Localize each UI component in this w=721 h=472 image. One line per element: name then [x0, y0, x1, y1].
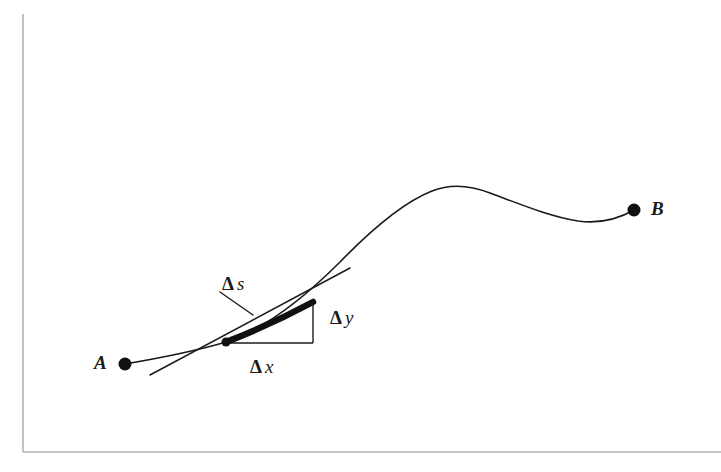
- figure-root: A B Δs Δy Δx: [0, 0, 721, 472]
- arc-variable-s: s: [237, 273, 244, 294]
- delta-x-label: Δx: [250, 357, 273, 376]
- point-a-marker: [119, 358, 132, 371]
- point-b-label: B: [651, 199, 664, 218]
- delta-y-label: Δy: [330, 308, 353, 327]
- delta-glyph-x: Δ: [250, 356, 262, 377]
- figure-frame: [23, 14, 721, 452]
- point-a-label: A: [94, 353, 107, 372]
- rise-variable-y: y: [345, 307, 353, 328]
- point-b-marker: [628, 204, 641, 217]
- delta-glyph-s: Δ: [222, 273, 234, 294]
- arc-label-leader-line: [220, 292, 253, 315]
- tangent-point-marker: [222, 338, 231, 347]
- arc-segment-highlight: [226, 302, 313, 342]
- run-variable-x: x: [265, 356, 273, 377]
- arc-length-diagram-canvas: [0, 0, 721, 472]
- arc-length-label: Δs: [222, 274, 244, 293]
- curve-path: [125, 186, 634, 364]
- delta-glyph-y: Δ: [330, 307, 342, 328]
